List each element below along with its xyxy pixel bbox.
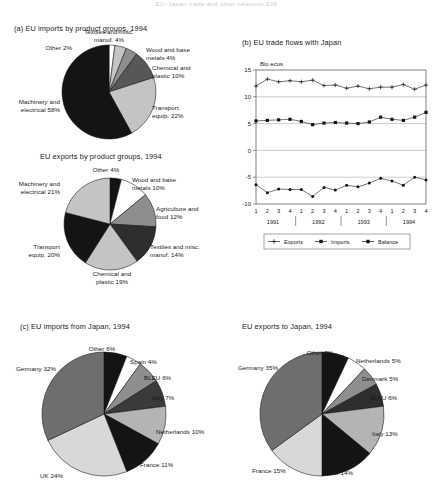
label-c-italy: Italy 7%	[152, 394, 192, 402]
marker-square	[368, 120, 371, 123]
marker-square	[390, 118, 393, 121]
x-tick-label: 1	[390, 208, 393, 214]
marker-plus	[413, 87, 417, 91]
marker-square	[334, 121, 337, 124]
legend-marker-square	[319, 240, 322, 243]
x-tick-label: 3	[277, 208, 280, 214]
x-year-label: 1991	[267, 219, 279, 225]
marker-square	[402, 119, 405, 122]
marker-square	[277, 118, 280, 121]
label-c-france: France 11%	[140, 461, 192, 469]
label-a-other: Other 2%	[24, 44, 72, 52]
label-d-other: Other 7%	[296, 349, 344, 357]
label-a-textiles: Textiles and misc.manuf. 4%	[78, 28, 140, 43]
marker-diamond	[300, 188, 303, 191]
label-a-wood: Wood and basemetals 4%	[146, 46, 208, 61]
marker-square	[300, 120, 303, 123]
marker-diamond	[289, 188, 292, 191]
marker-plus	[333, 83, 337, 87]
label-c-uk: UK 24%	[40, 472, 86, 480]
marker-square	[379, 116, 382, 119]
marker-diamond	[334, 189, 337, 192]
marker-diamond	[391, 179, 394, 182]
panel-d-title: EU exports to Japan, 1994	[242, 322, 332, 331]
y-tick-label: 5	[248, 121, 252, 127]
marker-diamond	[425, 178, 428, 181]
label-a-chemical: Chemical andplastic 10%	[152, 64, 208, 79]
series-line-imports	[256, 112, 426, 124]
marker-diamond	[413, 176, 416, 179]
pie-c-imports-japan	[40, 350, 168, 478]
marker-plus	[390, 85, 394, 89]
marker-square	[322, 121, 325, 124]
label-a2-transport: Transportequip. 20%	[6, 243, 60, 258]
running-head: EU–Japan trade and other relations 229	[0, 1, 433, 7]
marker-plus	[379, 85, 383, 89]
marker-square	[413, 116, 416, 119]
y-axis-label: Bio ecus	[260, 61, 283, 67]
marker-diamond	[379, 177, 382, 180]
x-tick-label: 3	[322, 208, 325, 214]
y-tick-label: 0	[248, 148, 252, 154]
y-tick-label: -5	[246, 174, 252, 180]
x-year-label: 1993	[357, 219, 369, 225]
label-d-bleu: BLEU 6%	[370, 394, 414, 402]
legend-label: Balance	[378, 239, 398, 245]
marker-plus	[401, 82, 405, 86]
marker-plus	[345, 86, 349, 90]
marker-plus	[322, 83, 326, 87]
legend-label: Imports	[331, 239, 350, 245]
marker-diamond	[368, 182, 371, 185]
marker-diamond	[402, 184, 405, 187]
label-d-germany: Germany 35%	[222, 364, 278, 372]
label-a-machinery: Machinery andelectrical 58%	[2, 98, 60, 113]
marker-square	[288, 118, 291, 121]
marker-diamond	[345, 184, 348, 187]
label-c-germany: Germany 32%	[2, 365, 56, 373]
marker-square	[356, 122, 359, 125]
x-tick-label: 4	[424, 208, 427, 214]
label-d-italy: Italy 13%	[372, 430, 414, 438]
x-tick-label: 1	[300, 208, 303, 214]
marker-diamond	[311, 195, 314, 198]
marker-diamond	[357, 185, 360, 188]
label-a2-textiles: Textiles and misc.manuf. 14%	[150, 243, 212, 258]
label-a2-agri: Agriculture andfood 12%	[156, 205, 214, 220]
x-tick-label: 3	[368, 208, 371, 214]
y-tick-label: 15	[244, 67, 251, 73]
y-tick-label: 10	[244, 94, 251, 100]
legend-label: Exports	[284, 239, 303, 245]
label-a-transport: Transportequip. 22%	[152, 104, 204, 119]
marker-plus	[424, 83, 428, 87]
series-line-exports	[256, 79, 426, 89]
marker-square	[345, 121, 348, 124]
label-d-france: France 15%	[252, 467, 304, 475]
label-c-netherlands: Netherlands 10%	[156, 428, 218, 436]
marker-plus	[265, 77, 269, 81]
panel-c-title: (c) EU imports from Japan, 1994	[20, 322, 130, 331]
label-a2-other: Other 4%	[82, 166, 130, 174]
x-tick-label: 2	[356, 208, 359, 214]
marker-square	[266, 119, 269, 122]
x-tick-label: 3	[413, 208, 416, 214]
x-tick-label: 2	[402, 208, 405, 214]
panel-b-title: (b) EU trade flows with Japan	[242, 38, 341, 47]
x-tick-label: 2	[311, 208, 314, 214]
marker-diamond	[323, 186, 326, 189]
label-c-other: Other 6%	[78, 345, 126, 353]
marker-plus	[356, 84, 360, 88]
marker-square	[424, 111, 427, 114]
marker-diamond	[255, 183, 258, 186]
x-tick-label: 4	[288, 208, 291, 214]
label-d-netherlands: Netherlands 5%	[356, 357, 418, 365]
label-a2-wood: Wood and basemetals 10%	[132, 176, 194, 191]
x-year-label: 1994	[403, 219, 415, 225]
figure-page: EU–Japan trade and other relations 229 (…	[0, 0, 433, 491]
x-tick-label: 1	[345, 208, 348, 214]
marker-diamond	[266, 191, 269, 194]
marker-square	[311, 123, 314, 126]
line-chart-b: -10-5051015Bio ecus123412341234123419911…	[230, 56, 430, 256]
marker-plus	[299, 80, 303, 84]
marker-plus	[277, 80, 281, 84]
x-tick-label: 4	[379, 208, 382, 214]
